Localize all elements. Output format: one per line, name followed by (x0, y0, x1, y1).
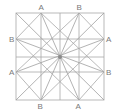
label-top-left: A (39, 3, 45, 12)
label-bottom-right: A (76, 102, 82, 111)
label-right-bottom: B (106, 68, 111, 77)
label-right-top: A (106, 35, 112, 44)
label-top-right: B (77, 3, 82, 12)
geometric-diagram: A B B A A B B A (0, 0, 114, 111)
diagram-canvas: A B B A A B B A (0, 0, 114, 111)
label-left-top: B (9, 35, 14, 44)
center-point (58, 55, 62, 59)
label-bottom-left: B (38, 102, 43, 111)
label-left-bottom: A (9, 68, 15, 77)
